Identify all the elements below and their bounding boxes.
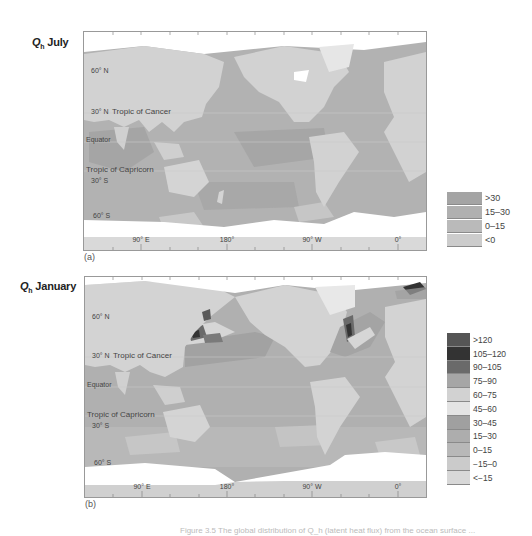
equator-label: Equator [87,381,112,388]
legend-label: 105–120 [473,349,506,359]
legend-swatch [447,416,470,430]
tropic-of-capricorn-label: Tropic of Capricorn [86,165,154,174]
lat-label-30s: 30° S [91,177,108,184]
panel-b-label: (b) [85,499,96,509]
lat-label-30n: 30° N [91,108,109,115]
legend-label: <−15 [473,473,492,483]
legend-item: <−15 [447,471,506,485]
map-july: 60° N 30° N Tropic of Cancer Equator Tro… [83,31,427,251]
legend-swatch [447,388,470,402]
legend-swatch [447,457,470,471]
lon-label-180: 180° [220,236,234,243]
lat-label-60n: 60° N [92,313,110,320]
legend-label: 15–30 [473,431,497,441]
legend-label: <0 [485,235,495,245]
legend-label: 0–15 [485,221,505,231]
legend-label: 15–30 [485,207,510,217]
panel-b-title: Qh January [20,280,76,294]
legend-swatch [447,471,470,485]
lat-label-30s: 30° S [92,422,109,429]
legend-swatch [447,443,470,457]
legend-item: 15–30 [447,430,506,444]
world-map-july [84,32,426,250]
title-month: January [32,280,76,292]
legend-label: 45–60 [473,404,497,414]
legend-item: <0 [447,233,510,247]
tropic-of-cancer-label: Tropic of Cancer [112,107,171,116]
legend-swatch [447,220,482,233]
legend-label: 60–75 [473,390,497,400]
legend-item: 45–60 [447,402,506,416]
legend-label: 0–15 [473,445,492,455]
lon-label-90e: 90° E [133,483,150,490]
legend-item: >30 [447,191,510,205]
legend-label: 75–90 [473,376,497,386]
legend-item: 60–75 [447,388,506,402]
legend-item: >120 [447,333,506,347]
legend-label: 90–105 [473,362,501,372]
lat-label-60s: 60° S [93,212,110,219]
legend-swatch [447,333,470,347]
legend-label: >30 [485,193,500,203]
figure-caption: Figure 3.5 The global distribution of Q_… [180,526,475,535]
title-month: July [44,36,68,48]
panel-a-title: Qh July [32,36,69,50]
legend-item: 0–15 [447,443,506,457]
legend-swatch [447,402,470,416]
legend-swatch [447,347,470,361]
legend-swatch [447,192,482,205]
legend-swatch [447,430,470,444]
legend-item: −15–0 [447,457,506,471]
legend-label: −15–0 [473,459,497,469]
legend-label: 30–45 [473,418,497,428]
lat-label-60n: 60° N [91,67,109,74]
tropic-of-cancer-label: Tropic of Cancer [113,351,172,360]
tropic-of-capricorn-label: Tropic of Capricorn [87,410,155,419]
lon-label-0: 0° [395,483,402,490]
world-map-january [85,277,426,497]
map-january: 60° N 30° N Tropic of Cancer Equator Tro… [84,276,427,498]
lon-label-90w: 90° W [302,483,321,490]
legend-january: >120 105–120 90–105 75–90 60–75 45–60 30… [447,333,506,485]
lon-label-90e: 90° E [132,236,149,243]
legend-july: >30 15–30 0–15 <0 [447,191,510,247]
equator-label: Equator [86,136,111,143]
lat-label-30n: 30° N [92,352,110,359]
legend-item: 90–105 [447,361,506,375]
legend-item: 105–120 [447,347,506,361]
lon-label-180: 180° [220,483,234,490]
legend-item: 75–90 [447,374,506,388]
lon-label-0: 0° [395,236,402,243]
legend-swatch [447,234,482,247]
legend-swatch [447,374,470,388]
panel-a-label: (a) [84,252,95,262]
legend-swatch [447,206,482,219]
lat-label-60s: 60° S [94,459,111,466]
legend-item: 15–30 [447,205,510,219]
lon-label-90w: 90° W [302,236,321,243]
legend-item: 0–15 [447,219,510,233]
legend-label: >120 [473,335,492,345]
legend-item: 30–45 [447,416,506,430]
legend-swatch [447,361,470,375]
